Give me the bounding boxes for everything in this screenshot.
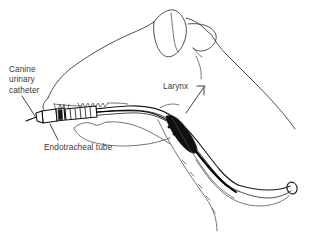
label-canine-line3: catheter bbox=[9, 85, 39, 95]
canine-intubation-figure: Canineurinarycatheter Endotracheal tube … bbox=[0, 0, 331, 243]
leader-line-larynx bbox=[186, 87, 204, 113]
leader-line-endotracheal bbox=[50, 124, 58, 140]
leader-line-catheter bbox=[22, 96, 35, 116]
tube-connector bbox=[36, 106, 97, 123]
illustration-canvas bbox=[0, 0, 331, 243]
label-endotracheal-tube: Endotracheal tube bbox=[44, 142, 112, 152]
label-canine-urinary-catheter: Canineurinarycatheter bbox=[9, 64, 39, 95]
label-canine-line2: urinary bbox=[9, 74, 35, 84]
label-larynx: Larynx bbox=[163, 81, 188, 91]
label-canine-line1: Canine bbox=[9, 64, 36, 74]
ear bbox=[154, 10, 217, 57]
